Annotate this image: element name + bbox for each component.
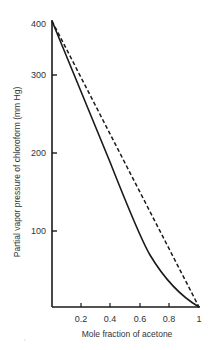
speck-mark <box>24 339 25 340</box>
y-tick-100: 100 <box>31 226 46 236</box>
x-tick-labels: 0.2 0.4 0.6 0.8 1 <box>75 314 202 324</box>
x-tick-0.2: 0.2 <box>75 314 88 324</box>
x-tick-0.4: 0.4 <box>104 314 117 324</box>
y-tick-labels: 400 300 200 100 <box>31 19 46 236</box>
y-tick-200: 200 <box>31 148 46 158</box>
vapor-pressure-chart: 400 300 200 100 0.2 0.4 0.6 0.8 1 Mole f… <box>0 0 210 350</box>
x-tick-0.8: 0.8 <box>163 314 176 324</box>
ideal-raoult-line <box>52 21 199 307</box>
x-axis-title: Mole fraction of acetone <box>82 329 173 339</box>
x-tick-0.6: 0.6 <box>134 314 147 324</box>
x-tick-1: 1 <box>196 314 201 324</box>
y-tick-300: 300 <box>31 70 46 80</box>
y-axis-title: Partial vapor pressure of chloroform (mm… <box>12 87 22 258</box>
y-tick-400: 400 <box>31 19 46 29</box>
